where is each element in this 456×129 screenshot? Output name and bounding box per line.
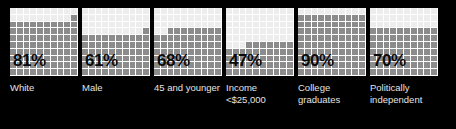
- waffle-cell: [411, 28, 418, 35]
- waffle-cell: [233, 22, 240, 29]
- waffle-cell: [82, 69, 89, 76]
- waffle-cell: [174, 42, 181, 49]
- waffle-cell: [51, 8, 58, 15]
- waffle-cell: [298, 42, 305, 49]
- waffle-cell: [260, 69, 267, 76]
- waffle-cell: [202, 42, 209, 49]
- waffle-cell: [10, 42, 17, 49]
- waffle-cell: [390, 42, 397, 49]
- waffle-cell: [44, 35, 51, 42]
- waffle-cell: [312, 28, 319, 35]
- waffle-cell: [346, 69, 353, 76]
- waffle-chart-politically-independent: 70%: [370, 8, 438, 76]
- waffle-cell: [10, 69, 17, 76]
- waffle-chart-college-graduates: 90%: [298, 8, 366, 76]
- waffle-cell: [154, 42, 161, 49]
- waffle-cell: [287, 42, 294, 49]
- waffle-cell: [130, 56, 137, 63]
- waffle-cell: [136, 62, 143, 69]
- waffle-cell: [195, 42, 202, 49]
- waffle-cell: [359, 69, 366, 76]
- waffle-cell: [30, 35, 37, 42]
- waffle-cell: [253, 15, 260, 22]
- waffle-cell: [305, 22, 312, 29]
- waffle-cell: [411, 62, 418, 69]
- waffle-cell: [287, 28, 294, 35]
- waffle-cell: [253, 8, 260, 15]
- waffle-cell: [188, 22, 195, 29]
- waffle-cell: [352, 42, 359, 49]
- waffle-cell: [233, 15, 240, 22]
- waffle-cell: [287, 49, 294, 56]
- waffle-cell: [174, 69, 181, 76]
- waffle-cell: [71, 56, 78, 63]
- waffle-cell: [208, 49, 215, 56]
- waffle-cell: [280, 56, 287, 63]
- waffle-cell: [253, 22, 260, 29]
- waffle-cell: [359, 42, 366, 49]
- waffle-cell: [325, 28, 332, 35]
- waffle-cell: [102, 8, 109, 15]
- waffle-cell: [411, 8, 418, 15]
- waffle-cell: [246, 8, 253, 15]
- waffle-cell: [240, 15, 247, 22]
- waffle-cell: [64, 49, 71, 56]
- waffle-cell: [352, 49, 359, 56]
- waffle-cell: [397, 28, 404, 35]
- waffle-cell: [267, 42, 274, 49]
- waffle-cell: [89, 69, 96, 76]
- waffle-cell: [82, 42, 89, 49]
- waffle-cell: [188, 42, 195, 49]
- waffle-cell: [274, 62, 281, 69]
- waffle-cell: [161, 28, 168, 35]
- waffle-cell: [411, 35, 418, 42]
- waffle-cell: [424, 62, 431, 69]
- waffle-cell: [202, 8, 209, 15]
- waffle-cell: [404, 69, 411, 76]
- waffle-cell: [181, 8, 188, 15]
- waffle-cell: [397, 35, 404, 42]
- waffle-cell: [359, 28, 366, 35]
- waffle-cell: [390, 15, 397, 22]
- waffle-cell: [30, 28, 37, 35]
- waffle-cell: [123, 42, 130, 49]
- waffle-cell: [377, 8, 384, 15]
- waffle-cell: [325, 42, 332, 49]
- waffle-cell: [339, 15, 346, 22]
- waffle-cell: [51, 62, 58, 69]
- waffle-cell: [215, 56, 222, 63]
- waffle-cell: [305, 15, 312, 22]
- waffle-cell: [424, 56, 431, 63]
- waffle-cell: [51, 49, 58, 56]
- waffle-cell: [359, 56, 366, 63]
- waffle-cell: [143, 8, 150, 15]
- percent-value: 61%: [85, 52, 118, 69]
- waffle-cell: [202, 28, 209, 35]
- waffle-cell: [377, 35, 384, 42]
- waffle-chart-male: 61%: [82, 8, 150, 76]
- waffle-cell: [370, 35, 377, 42]
- waffle-cell: [181, 69, 188, 76]
- waffle-cell: [123, 28, 130, 35]
- waffle-cell: [280, 62, 287, 69]
- waffle-cell: [71, 49, 78, 56]
- percent-value: 68%: [157, 52, 190, 69]
- waffle-cell: [102, 22, 109, 29]
- waffle-cell: [188, 15, 195, 22]
- waffle-cell: [233, 42, 240, 49]
- waffle-cell: [390, 8, 397, 15]
- waffle-chart-income-under-25000: 47%: [226, 8, 294, 76]
- waffle-cell: [274, 35, 281, 42]
- waffle-cell: [298, 22, 305, 29]
- waffle-cell: [325, 15, 332, 22]
- waffle-cell: [404, 15, 411, 22]
- waffle-cell: [305, 69, 312, 76]
- waffle-cell: [17, 42, 24, 49]
- waffle-cell: [51, 22, 58, 29]
- waffle-cell: [116, 69, 123, 76]
- waffle-cell: [161, 8, 168, 15]
- waffle-cell: [332, 8, 339, 15]
- waffle-cell: [260, 28, 267, 35]
- waffle-cell: [71, 42, 78, 49]
- waffle-cell: [233, 69, 240, 76]
